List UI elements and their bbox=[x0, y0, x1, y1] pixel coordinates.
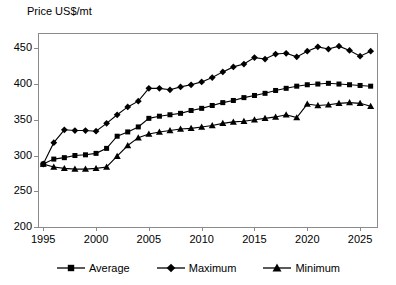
y-tick-label: 250 bbox=[2, 185, 32, 196]
x-tick-label: 2005 bbox=[129, 234, 169, 245]
y-axis-label: Price US$/mt bbox=[27, 5, 92, 18]
square-marker-icon bbox=[56, 262, 86, 274]
triangle-marker-icon bbox=[262, 262, 292, 274]
x-tick-label: 2020 bbox=[287, 234, 327, 245]
y-tick-label: 350 bbox=[2, 114, 32, 125]
x-tick-label: 2015 bbox=[234, 234, 274, 245]
y-tick-label: 300 bbox=[2, 150, 32, 161]
legend-item-maximum[interactable]: Maximum bbox=[156, 262, 237, 274]
y-tick-label: 450 bbox=[2, 42, 32, 53]
diamond-marker-icon bbox=[156, 262, 186, 274]
x-tick-label: 2025 bbox=[340, 234, 380, 245]
series-average bbox=[41, 81, 373, 167]
chart-legend: AverageMaximumMinimum bbox=[0, 262, 396, 274]
x-tick-label: 1995 bbox=[23, 234, 63, 245]
legend-label: Minimum bbox=[295, 263, 340, 274]
y-tick-label: 400 bbox=[2, 78, 32, 89]
legend-label: Maximum bbox=[189, 263, 237, 274]
plot-area bbox=[38, 33, 378, 228]
x-tick-label: 2000 bbox=[76, 234, 116, 245]
series-minimum bbox=[40, 99, 374, 172]
y-tick-label: 200 bbox=[2, 221, 32, 232]
legend-label: Average bbox=[89, 263, 130, 274]
chart-container: Price US$/mt 200250300350400450 19952000… bbox=[0, 0, 396, 285]
legend-item-minimum[interactable]: Minimum bbox=[262, 262, 340, 274]
x-tick-label: 2010 bbox=[182, 234, 222, 245]
legend-item-average[interactable]: Average bbox=[56, 262, 130, 274]
series-svg bbox=[39, 34, 377, 227]
